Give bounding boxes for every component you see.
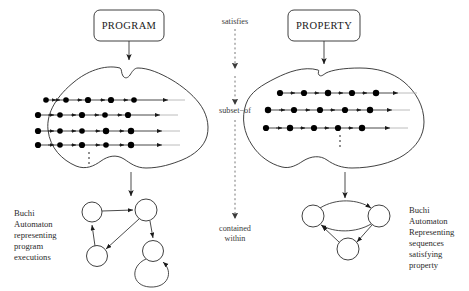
property-box-label: PROPERTY — [296, 20, 352, 31]
left-state-q3[interactable] — [143, 241, 164, 262]
left-sequence-row-4 — [35, 142, 180, 148]
right-state-p2[interactable] — [337, 238, 359, 260]
within-label: within — [225, 234, 246, 243]
right-automaton[interactable] — [302, 201, 390, 260]
right-edge-p1-p0 — [321, 224, 371, 231]
left-state-q1[interactable] — [135, 199, 157, 221]
satisfies-connector: satisfies — [222, 17, 248, 68]
left-caption-line-5: executions — [14, 252, 51, 262]
left-state-q2[interactable] — [87, 246, 108, 267]
left-caption: Buchi Automaton representing program exe… — [14, 208, 57, 262]
left-caption-line-1: Buchi — [14, 208, 35, 218]
right-state-p0[interactable] — [302, 205, 324, 227]
right-caption-line-4: sequences — [409, 238, 444, 248]
subset-of-label: subset−of — [219, 106, 251, 115]
contained-within-connector: contained within — [219, 120, 251, 243]
left-sequence-row-1 — [43, 97, 185, 103]
right-sequence-row-2 — [265, 107, 410, 113]
left-edge-q2-q0 — [92, 225, 95, 246]
satisfies-label: satisfies — [222, 17, 248, 26]
left-caption-line-4: program — [14, 241, 43, 251]
right-caption-line-5: satisfying — [409, 249, 443, 259]
right-caption-line-3: Representing — [409, 227, 455, 237]
left-edge-q0-q1 — [102, 210, 133, 211]
right-caption-line-6: property — [409, 260, 439, 270]
subset-of-connector: subset−of — [219, 76, 251, 115]
property-box[interactable]: PROPERTY — [288, 10, 360, 41]
left-caption-line-2: Automaton — [14, 219, 53, 229]
left-sequence-row-2 — [35, 112, 178, 118]
left-automaton[interactable] — [82, 199, 169, 287]
right-blob-ellipsis — [339, 135, 341, 147]
left-blob-ellipsis — [88, 152, 90, 164]
program-box-label: PROGRAM — [102, 20, 157, 31]
contained-label: contained — [219, 224, 251, 233]
left-state-q0[interactable] — [82, 202, 102, 222]
left-sequence-row-3 — [35, 128, 180, 134]
right-edge-p0-p1 — [320, 201, 371, 208]
diagram-canvas: PROGRAM PROPERTY — [0, 0, 469, 291]
left-edge-q3-selfloop — [135, 259, 169, 287]
left-edge-q1-q3 — [150, 221, 153, 238]
right-sequence-row-3 — [263, 125, 408, 131]
right-edge-p2-p0 — [322, 226, 339, 242]
left-caption-line-3: representing — [14, 230, 57, 240]
right-blob-outline — [244, 68, 424, 168]
diagram-svg: PROGRAM PROPERTY — [0, 0, 469, 291]
right-caption-line-1: Buchi — [409, 205, 430, 215]
left-edge-q1-q2 — [106, 219, 139, 249]
right-caption: Buchi Automaton Representing sequences s… — [409, 205, 455, 270]
program-box[interactable]: PROGRAM — [94, 10, 164, 41]
right-caption-line-2: Automaton — [409, 216, 448, 226]
right-state-p1[interactable] — [368, 205, 390, 227]
right-sequence-row-1 — [277, 90, 417, 96]
